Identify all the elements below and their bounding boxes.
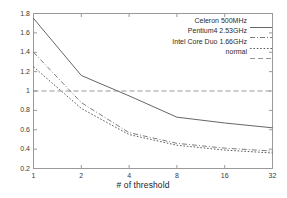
x-axis-title: # of threshold: [0, 180, 286, 190]
x-tick-label: 8: [162, 172, 192, 179]
y-tick-label: 0.8: [4, 106, 30, 113]
legend-label: Pentium4 2.53GHz: [188, 27, 247, 34]
y-tick-label: 1.2: [4, 68, 30, 75]
legend-entry: Intel Core Duo 1.66GHz: [172, 36, 272, 46]
series-line: [34, 52, 273, 151]
legend-swatch: [250, 27, 272, 34]
series-line: [34, 67, 273, 153]
y-tick-label: 1: [4, 87, 30, 94]
y-tick-label: 1.6: [4, 29, 30, 36]
legend-swatch: [250, 17, 272, 24]
legend-entry: Celeron 500MHz: [194, 15, 272, 25]
x-tick-label: 16: [210, 172, 240, 179]
legend-label: normal: [226, 48, 247, 55]
x-tick-label: 1: [19, 172, 49, 179]
x-tick-label: 2: [66, 172, 96, 179]
x-tick-label: 4: [114, 172, 144, 179]
y-tick-label: 0.6: [4, 126, 30, 133]
y-tick-label: 1.4: [4, 48, 30, 55]
x-tick-label: 32: [258, 172, 287, 179]
legend-label: Celeron 500MHz: [194, 17, 247, 24]
legend-swatch: [250, 48, 272, 55]
legend-entry: normal: [226, 47, 272, 57]
chart-figure: 0.20.40.60.811.21.41.61.8 12481632 # of …: [0, 0, 286, 198]
y-tick-label: 0.2: [4, 165, 30, 172]
legend-swatch: [250, 38, 272, 45]
y-tick-label: 1.8: [4, 10, 30, 17]
legend-label: Intel Core Duo 1.66GHz: [172, 38, 247, 45]
legend-entry: Pentium4 2.53GHz: [188, 26, 272, 36]
y-tick-label: 0.4: [4, 145, 30, 152]
